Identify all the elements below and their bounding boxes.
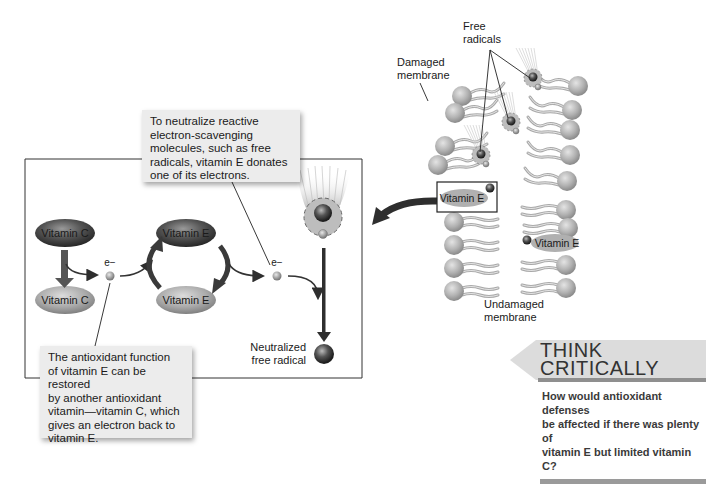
free-radicals-label-2: radicals	[463, 33, 501, 45]
undamaged-membrane-label-2: membrane	[484, 311, 537, 323]
leader-restore	[95, 283, 110, 346]
free-radicals-leaders	[480, 50, 530, 152]
phospholipid	[444, 212, 498, 232]
damaged-membrane-label-1: Damaged	[397, 56, 445, 68]
vitamin-e-bottom-ellipse: Vitamin E	[156, 286, 216, 314]
phospholipid	[444, 258, 498, 278]
vitamin-c-top-label: Vitamin C	[41, 227, 89, 239]
callout-line: molecules, such as free	[150, 142, 292, 156]
zoom-arrow	[372, 201, 437, 225]
free-radical	[516, 48, 542, 90]
damaged-membrane-label-2: membrane	[397, 69, 450, 81]
electron-left: e−	[104, 257, 116, 281]
question-line: be affected if there was plenty of	[542, 417, 706, 445]
question-line: How would antioxidant defenses	[542, 389, 706, 417]
vitamin-c-oxidized-ellipse: Vitamin C	[35, 219, 95, 247]
phospholipid	[536, 73, 588, 96]
electron-right-label: e−	[271, 257, 283, 268]
think-critically-banner: THINK CRITICALLY	[510, 338, 706, 383]
free-radicals-label-1: Free	[463, 20, 486, 32]
callout-line: vitamin E.	[48, 432, 184, 446]
callout-vitamin-e-donates: To neutralize reactive electron-scavengi…	[142, 110, 300, 182]
think-title-line2: CRITICALLY	[540, 359, 659, 377]
phospholipid	[445, 100, 497, 123]
vitamin-e-membrane-inner: Vitamin E	[523, 234, 580, 252]
callout-line: by another antioxidant	[48, 392, 184, 406]
think-critically-question: How would antioxidant defenses be affect…	[542, 389, 706, 473]
free-radical-large	[296, 166, 350, 239]
neutralization-arrow	[317, 248, 331, 342]
phospholipid	[528, 142, 580, 165]
vitamin-e-boxed-label: Vitamin E	[440, 192, 485, 204]
vitamin-c-bottom-label: Vitamin C	[41, 294, 89, 306]
think-critically-title: THINK CRITICALLY	[540, 341, 659, 377]
vitamin-c-down-arrow	[55, 250, 74, 288]
vitamin-e-top-ellipse: Vitamin E	[156, 219, 216, 247]
vitamin-e-inner-label: Vitamin E	[535, 237, 580, 249]
electron-to-radical-arrow	[288, 276, 318, 297]
callout-line: radicals, vitamin E donates	[150, 156, 292, 170]
think-critically-rule	[540, 479, 706, 484]
damaged-membrane-leader	[420, 83, 428, 101]
electron-left-label: e−	[104, 257, 116, 268]
callout-line: electron-scavenging	[150, 129, 292, 143]
neutralized-label-2: free radical	[252, 354, 306, 366]
phospholipid	[528, 117, 580, 140]
undamaged-membrane-label-1: Undamaged	[484, 298, 544, 310]
leader-donate	[232, 182, 270, 265]
vitamin-e-top-label: Vitamin E	[163, 227, 210, 239]
callout-line: one of its electrons.	[150, 169, 292, 183]
electron-right: e−	[271, 257, 283, 281]
cycle-left-arrow	[149, 236, 163, 288]
callout-line: The antioxidant function	[48, 351, 184, 365]
phospholipid	[522, 255, 576, 275]
phospholipid	[444, 235, 498, 255]
think-critically-box: THINK CRITICALLY How would antioxidant d…	[510, 338, 706, 484]
phospholipid	[525, 168, 577, 191]
vitamin-e-membrane-boxed: Vitamin E	[440, 184, 495, 208]
callout-line: To neutralize reactive	[150, 115, 292, 129]
vitamin-c-reduced-ellipse: Vitamin C	[35, 286, 95, 314]
cycle-right-arrow	[212, 246, 228, 294]
vitamin-c-electron-arrow	[66, 264, 96, 275]
callout-line: gives an electron back to	[48, 419, 184, 433]
vitamin-e-electron-arrow	[229, 264, 262, 276]
question-line: vitamin E but limited vitamin C?	[542, 445, 706, 473]
callout-vitamin-c-restores: The antioxidant function of vitamin E ca…	[40, 346, 192, 438]
callout-line: of vitamin E can be restored	[48, 365, 184, 392]
neutralized-label-1: Neutralized	[250, 341, 306, 353]
vitamin-e-bottom-label: Vitamin E	[163, 294, 210, 306]
phospholipid	[522, 278, 576, 298]
phospholipid	[530, 97, 582, 120]
phospholipid	[522, 200, 576, 220]
neutralized-radical	[314, 344, 334, 364]
callout-line: vitamin—vitamin C, which	[48, 405, 184, 419]
